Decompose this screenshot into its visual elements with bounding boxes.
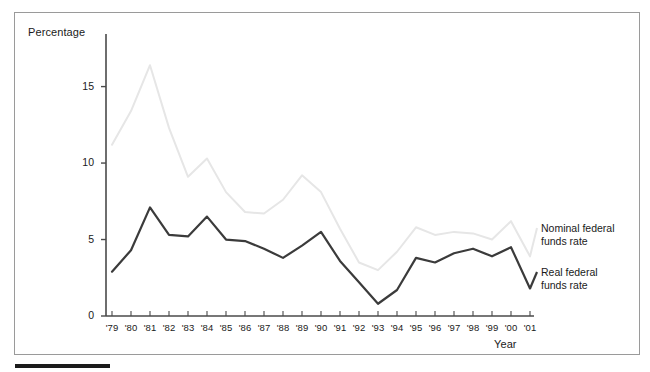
legend-label-nominal: Nominal federal funds rate <box>541 222 615 247</box>
legend-label-real: Real federal funds rate <box>541 266 598 291</box>
y-tick-label: 15 <box>64 80 94 92</box>
legend-real-line1: Real federal <box>541 266 598 279</box>
axis-group <box>101 34 534 316</box>
y-tick-label: 0 <box>64 309 94 321</box>
y-axis-title: Percentage <box>28 26 85 38</box>
legend-nominal-line2: funds rate <box>541 235 615 248</box>
series-group <box>112 65 530 304</box>
y-tick-label: 10 <box>64 156 94 168</box>
legend-leader-group <box>530 228 537 288</box>
x-axis-title: Year <box>494 338 517 350</box>
footer-rule <box>15 364 110 368</box>
legend-nominal-line1: Nominal federal <box>541 222 615 235</box>
x-tick-label: '01 <box>519 322 541 333</box>
legend-real-line2: funds rate <box>541 279 598 292</box>
y-tick-label: 5 <box>64 233 94 245</box>
chart-plot <box>0 0 650 372</box>
